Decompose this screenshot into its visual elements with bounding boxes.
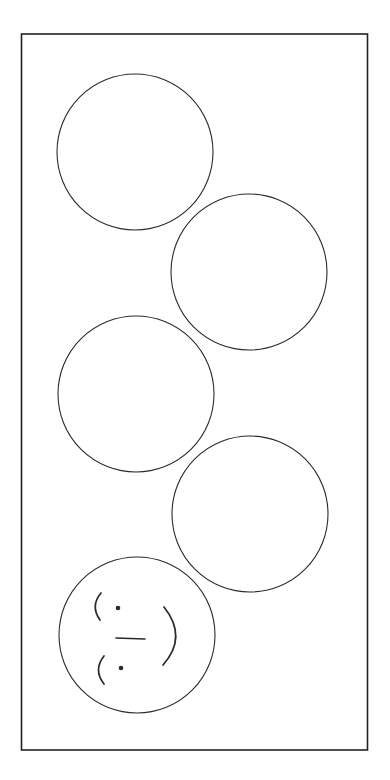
- upper-eye-dot: [116, 606, 121, 611]
- lower-eye-dot: [119, 666, 124, 671]
- drawing-canvas: [0, 0, 390, 780]
- nose-dash: [116, 638, 145, 639]
